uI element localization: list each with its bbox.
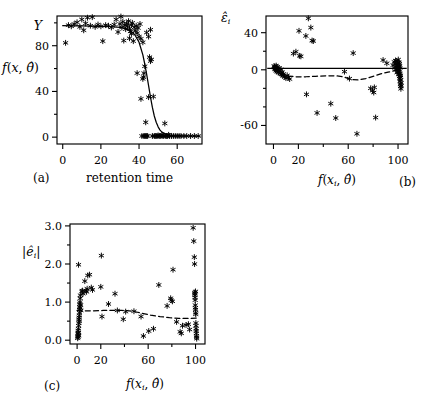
panel-b-svg: 02060100-60040ε̂if(xi, θ̂)(b) xyxy=(211,0,422,200)
panel-a-xtick-label: 20 xyxy=(94,154,108,167)
panel-c-ytick-label: 3.0 xyxy=(45,220,63,233)
panel-b-label: (b) xyxy=(399,175,416,189)
panel-b-xtick-label: 0 xyxy=(270,154,277,167)
panel-b-ytick-label: 40 xyxy=(244,27,258,40)
panel-b-ytick-label: -60 xyxy=(240,119,258,132)
panel-c-label: (c) xyxy=(44,379,60,393)
panel-b-ylabel: ε̂i xyxy=(221,10,231,26)
panel-b-xtick-label: 60 xyxy=(341,154,355,167)
panel-c-xtick-label: 60 xyxy=(141,354,155,367)
svg-text:f(x, θ̂): f(x, θ̂) xyxy=(1,60,39,75)
panel-b: 02060100-60040ε̂if(xi, θ̂)(b) xyxy=(211,0,422,200)
panel-c-ytick-label: 2.0 xyxy=(45,258,63,271)
panel-a-ylabel-top: Y xyxy=(34,18,44,33)
panel-c-ylabel: |êi| xyxy=(22,244,40,260)
panel-b-xtick-label: 100 xyxy=(388,154,409,167)
panel-a-ylabel-bottom: f(x, θ̂) xyxy=(1,60,39,75)
panel-a-xlabel: retention time xyxy=(86,171,173,185)
panel-b-xlabel: f(xi, θ̂) xyxy=(317,173,356,188)
panel-a-ytick-label: 80 xyxy=(35,40,49,53)
panel-a-xtick-label: 40 xyxy=(132,154,146,167)
panel-c-svg: 020601000.01.02.03.0|êi|f(xi, θ̂)(c) xyxy=(0,200,250,406)
panel-a-ytick-label: 40 xyxy=(35,85,49,98)
panel-b-ytick-label: 0 xyxy=(251,64,258,77)
panel-c-ytick-label: 1.0 xyxy=(45,296,63,309)
panel-c: 020601000.01.02.03.0|êi|f(xi, θ̂)(c) xyxy=(0,200,250,406)
panel-c-xtick-label: 20 xyxy=(94,354,108,367)
panel-c-xtick-label: 100 xyxy=(185,354,206,367)
panel-a-svg: 020406004080Yf(x, θ̂)retention time(a) xyxy=(0,0,211,200)
panel-c-ytick-label: 0.0 xyxy=(45,334,63,347)
panel-a-xtick-label: 0 xyxy=(59,154,66,167)
panel-b-xtick-label: 20 xyxy=(291,154,305,167)
panel-a-label: (a) xyxy=(33,171,50,185)
panel-a: 020406004080Yf(x, θ̂)retention time(a) xyxy=(0,0,211,200)
panel-a-ytick-label: 0 xyxy=(42,131,49,144)
panel-a-xtick-label: 60 xyxy=(170,154,184,167)
panel-c-xtick-label: 0 xyxy=(74,354,81,367)
panel-c-xlabel: f(xi, θ̂) xyxy=(125,377,164,392)
